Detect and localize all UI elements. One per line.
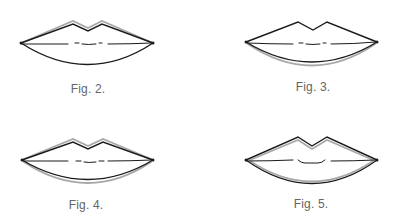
fig5-lower-lip-shadow <box>250 161 373 182</box>
fig3-upper-lip <box>246 22 377 42</box>
figure-4-caption: Fig. 4. <box>69 198 104 212</box>
fig2-mouth-line-center <box>75 43 102 45</box>
figure-2-caption: Fig. 2. <box>71 82 106 96</box>
figure-4-lips <box>21 139 155 183</box>
fig5-mouth-line-center <box>298 160 325 163</box>
fig4-mouth-line-center <box>76 161 104 163</box>
lip-figures-canvas: Fig. 2. Fig. 3. Fig. 4. Fig. 5. <box>0 0 395 215</box>
fig5-mouth-line-right <box>331 160 376 161</box>
fig3-mouth-line-right <box>331 42 376 44</box>
fig3-mouth-line-center <box>299 43 326 45</box>
figure-5-lips <box>245 137 379 184</box>
figure-3-lips <box>245 22 379 66</box>
fig2-lower-lip <box>21 43 153 65</box>
fig5-lower-lip <box>246 160 377 184</box>
figure-2-lips <box>20 21 155 65</box>
fig2-mouth-line-right <box>108 43 152 44</box>
figure-5-caption: Fig. 5. <box>294 197 329 211</box>
fig2-upper-lip-shadow <box>21 21 153 43</box>
fig3-lower-lip <box>246 42 377 62</box>
fig3-mouth-line-left <box>247 43 293 44</box>
fig4-mouth-line-right <box>108 160 152 161</box>
figure-3-caption: Fig. 3. <box>296 80 331 94</box>
lip-diagrams <box>0 0 395 215</box>
fig5-mouth-line-left <box>247 160 293 161</box>
